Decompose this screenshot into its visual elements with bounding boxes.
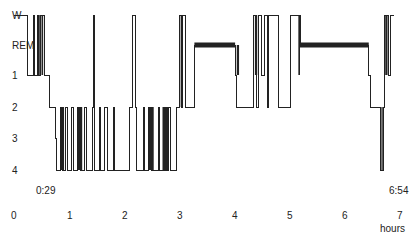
y-label-stage4: 4 (12, 165, 18, 176)
transition-bar (255, 15, 257, 75)
x-tick-1: 1 (67, 210, 73, 221)
sleep-onset-annotation: 0:29 (36, 185, 56, 196)
y-label-rem: REM (12, 40, 34, 51)
y-label-stage1: 1 (12, 70, 18, 81)
x-tick-0: 0 (11, 210, 17, 221)
transition-bar (77, 107, 82, 170)
x-tick-7: 7 (397, 210, 403, 221)
transition-bar (61, 107, 64, 170)
transition-bar (163, 107, 169, 170)
transition-bar (42, 15, 44, 75)
y-axis-labels: W REM 1 2 3 4 (12, 10, 34, 176)
y-label-stage3: 3 (12, 133, 18, 144)
hypnogram-trace (14, 15, 394, 170)
transition-bar (37, 15, 40, 75)
x-axis-unit: hours (380, 223, 405, 234)
transition-bar (181, 15, 183, 107)
transition-bar (298, 15, 300, 75)
transition-bar (149, 107, 154, 170)
x-tick-4: 4 (232, 210, 238, 221)
transition-bar (385, 15, 387, 75)
y-label-stage2: 2 (12, 102, 18, 113)
wake-time-annotation: 6:54 (389, 185, 409, 196)
x-tick-3: 3 (177, 210, 183, 221)
x-tick-5: 5 (287, 210, 293, 221)
hypnogram-chart: W REM 1 2 3 4 0 1 2 3 4 5 6 7 hours 0:29… (0, 0, 419, 239)
transition-bar (381, 107, 382, 170)
rapid-transition-bars (37, 15, 387, 170)
x-tick-6: 6 (342, 210, 348, 221)
x-axis-labels: 0 1 2 3 4 5 6 7 hours (11, 210, 405, 234)
x-tick-2: 2 (122, 210, 128, 221)
transition-bar (237, 45, 239, 75)
